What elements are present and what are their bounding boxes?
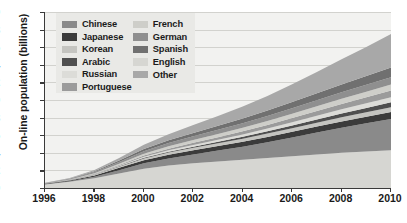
legend-swatch-icon	[133, 71, 148, 79]
legend-item-label: Spanish	[153, 44, 188, 54]
legend-swatch-icon	[133, 46, 148, 54]
x-axis-tick-label: 1998	[71, 192, 115, 204]
legend-swatch-icon	[133, 58, 148, 66]
plot-area: ChineseJapaneseKoreanArabicRussianPortug…	[44, 12, 391, 189]
x-axis-tick-label: 2004	[220, 192, 264, 204]
legend-swatch-icon	[62, 58, 77, 66]
legend-item-label: Portuguese	[82, 82, 132, 92]
y-axis-title: On-line population (billions)	[17, 0, 29, 167]
legend-item-portuguese[interactable]: Portuguese	[62, 81, 133, 94]
legend-item-label: Japanese	[82, 32, 123, 42]
legend-swatch-icon	[62, 71, 77, 79]
chart-container: On-line population (billions) 00.20.40.6…	[0, 0, 407, 223]
x-axis-tick-label: 2000	[121, 192, 165, 204]
legend-item-label: Russian	[82, 69, 117, 79]
x-axis-tick-label: 2002	[170, 192, 214, 204]
x-axis-tick-label: 2008	[319, 192, 363, 204]
legend-item-french[interactable]: French	[133, 18, 195, 31]
x-axis-tick-label: 2010	[368, 192, 407, 204]
x-axis-tick-label: 2006	[269, 192, 313, 204]
legend-swatch-icon	[62, 33, 77, 41]
legend-item-english[interactable]: English	[133, 56, 195, 69]
legend-swatch-icon	[133, 21, 148, 29]
legend-item-label: Korean	[82, 44, 113, 54]
legend-item-korean[interactable]: Korean	[62, 43, 133, 56]
legend-column-2: FrenchGermanSpanishEnglishOther	[133, 18, 195, 93]
legend-item-other[interactable]: Other	[133, 68, 195, 81]
legend-item-label: French	[153, 19, 183, 29]
legend-swatch-icon	[133, 33, 148, 41]
legend-item-label: German	[153, 32, 187, 42]
legend-item-german[interactable]: German	[133, 31, 195, 44]
legend-item-chinese[interactable]: Chinese	[62, 18, 133, 31]
x-axis-tick-label: 1996	[22, 192, 66, 204]
legend-swatch-icon	[62, 46, 77, 54]
legend: ChineseJapaneseKoreanArabicRussianPortug…	[56, 13, 195, 93]
legend-swatch-icon	[62, 21, 77, 29]
legend-item-japanese[interactable]: Japanese	[62, 31, 133, 44]
legend-item-russian[interactable]: Russian	[62, 68, 133, 81]
legend-column-1: ChineseJapaneseKoreanArabicRussianPortug…	[56, 18, 133, 93]
legend-swatch-icon	[62, 83, 77, 91]
legend-item-spanish[interactable]: Spanish	[133, 43, 195, 56]
legend-item-arabic[interactable]: Arabic	[62, 56, 133, 69]
legend-item-label: Other	[153, 70, 177, 80]
legend-item-label: English	[153, 57, 186, 67]
legend-item-label: Arabic	[82, 57, 110, 67]
legend-item-label: Chinese	[82, 19, 117, 29]
